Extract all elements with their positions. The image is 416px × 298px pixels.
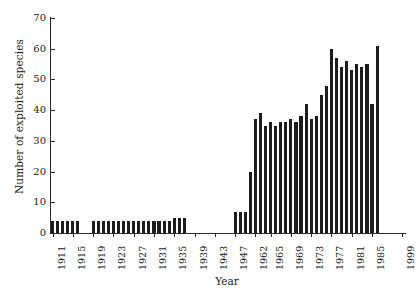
x-axis-tick-label: 1947: [239, 246, 249, 270]
bar: [147, 221, 150, 233]
x-axis-title: Year: [48, 275, 406, 287]
bar: [71, 221, 74, 233]
y-axis-tick-label: 0: [6, 228, 46, 238]
bar: [183, 218, 186, 233]
bar: [157, 221, 160, 233]
x-axis-tick-label: 1931: [158, 246, 168, 270]
bar: [142, 221, 145, 233]
bar: [163, 221, 166, 233]
x-axis-tick-mark: [73, 234, 74, 237]
bar: [289, 119, 292, 233]
bar: [107, 221, 110, 233]
x-axis-tick-mark: [195, 234, 196, 237]
x-axis-tick-mark: [372, 234, 373, 237]
bar: [274, 126, 277, 234]
y-axis-tick-label: 70: [6, 13, 46, 23]
bar: [117, 221, 120, 233]
x-axis-tick-mark: [235, 234, 236, 237]
x-axis-tick-mark: [134, 234, 135, 237]
bar: [92, 221, 95, 233]
bar: [330, 49, 333, 233]
bar: [355, 64, 358, 233]
bar: [122, 221, 125, 233]
x-axis-tick-label: 1927: [138, 246, 148, 270]
bar: [320, 95, 323, 233]
x-axis-tick-label: 1915: [77, 246, 87, 270]
bar: [66, 221, 69, 233]
bar: [168, 221, 171, 233]
bar: [173, 218, 176, 233]
y-axis-tick-mark: [50, 172, 55, 173]
bar: [376, 46, 379, 233]
bar: [279, 122, 282, 233]
x-axis-tick-label: 1999: [406, 246, 416, 270]
bar: [254, 119, 257, 233]
bar: [310, 119, 313, 233]
bar: [370, 104, 373, 233]
y-axis-tick-mark: [50, 233, 55, 234]
bar: [137, 221, 140, 233]
x-axis-tick-label: 1985: [376, 246, 386, 270]
y-axis-tick-label: 20: [6, 167, 46, 177]
y-axis-tick-mark: [50, 18, 55, 19]
bar: [249, 172, 252, 233]
y-axis-tick-mark: [50, 110, 55, 111]
x-axis-tick-label: 1919: [97, 246, 107, 270]
x-axis-tick-mark: [352, 234, 353, 237]
x-axis-tick-mark: [113, 234, 114, 237]
bar: [97, 221, 100, 233]
bar: [76, 221, 79, 233]
x-axis-tick-label: 1935: [178, 246, 188, 270]
x-axis-tick-mark: [215, 234, 216, 237]
x-axis-tick-label: 1981: [356, 246, 366, 270]
x-axis-tick-labels: 1911191519191923192719311935193919431947…: [50, 234, 405, 276]
x-axis-tick-label: 1923: [117, 246, 127, 270]
bar: [264, 126, 267, 234]
bar: [178, 218, 181, 233]
x-axis-tick-mark: [331, 234, 332, 237]
bar: [365, 64, 368, 233]
bar: [239, 212, 242, 234]
bar: [360, 67, 363, 233]
x-axis-tick-mark: [402, 234, 403, 237]
bar: [315, 116, 318, 233]
x-axis-tick-mark: [154, 234, 155, 237]
y-axis-tick-mark: [50, 49, 55, 50]
x-axis-tick-label: 1911: [57, 246, 67, 270]
y-axis-tick-mark: [50, 202, 55, 203]
x-axis-tick-mark: [291, 234, 292, 237]
x-axis-tick-mark: [271, 234, 272, 237]
x-axis-tick-label: 1939: [199, 246, 209, 270]
x-axis-tick-mark: [53, 234, 54, 237]
x-axis-tick-mark: [311, 234, 312, 237]
bar: [234, 212, 237, 234]
x-axis-tick-mark: [174, 234, 175, 237]
y-axis-tick-label: 10: [6, 197, 46, 207]
bar: [299, 116, 302, 233]
x-axis-tick-mark: [93, 234, 94, 237]
bar: [345, 61, 348, 233]
bar: [127, 221, 130, 233]
bar: [132, 221, 135, 233]
y-axis-tick-mark: [50, 141, 55, 142]
x-axis-tick-label: 1965: [275, 246, 285, 270]
bar: [51, 221, 54, 233]
x-axis-tick-label: 1973: [315, 246, 325, 270]
bar: [335, 58, 338, 233]
y-axis-tick-label: 60: [6, 44, 46, 54]
bar: [61, 221, 64, 233]
bar: [259, 113, 262, 233]
bar: [112, 221, 115, 233]
x-axis-tick-label: 1962: [259, 246, 269, 270]
x-axis-tick-label: 1943: [219, 246, 229, 270]
y-axis-tick-label: 30: [6, 136, 46, 146]
y-axis-tick-label: 50: [6, 74, 46, 84]
bar: [56, 221, 59, 233]
bar: [305, 104, 308, 233]
bar: [102, 221, 105, 233]
bar: [325, 86, 328, 233]
x-axis-tick-label: 1977: [335, 246, 345, 270]
y-axis-tick-mark: [50, 79, 55, 80]
bar: [284, 122, 287, 233]
